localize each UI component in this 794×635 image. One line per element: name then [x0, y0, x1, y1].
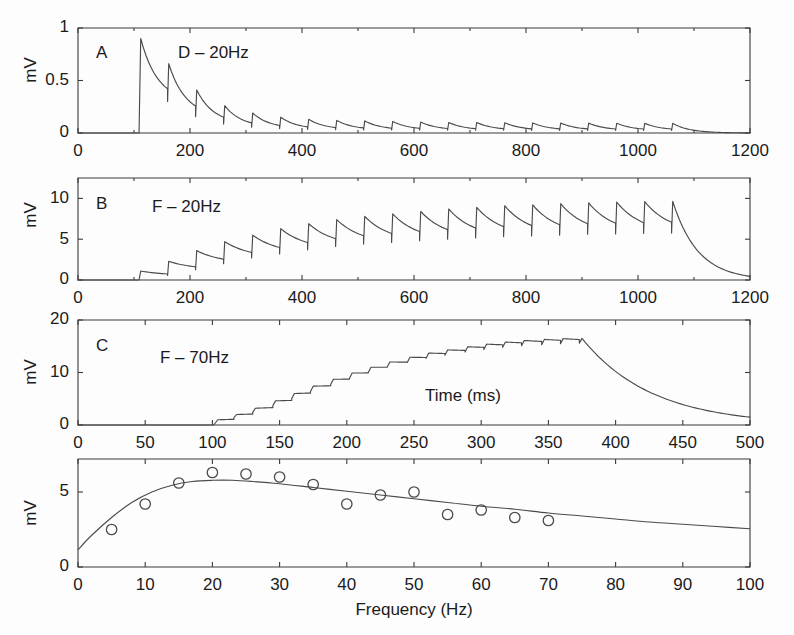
- panel-b: 020040060080010001200 0510 B F – 20Hz mV: [21, 178, 769, 307]
- panel-d-fit-curve: [78, 480, 750, 550]
- panel-d-data-point: [409, 487, 419, 497]
- panel-d-yticklabels: 05: [60, 481, 69, 575]
- pd-xticklabel: 90: [673, 575, 692, 594]
- pb-yticklabel: 10: [50, 188, 69, 207]
- pb-xticklabel: 600: [400, 288, 428, 307]
- panel-a-ylabel: mV: [21, 57, 40, 83]
- pd-xticklabel: 40: [337, 575, 356, 594]
- panel-d-data-point: [241, 469, 251, 479]
- panel-a-condition-label: D – 20Hz: [178, 43, 249, 62]
- panel-d-axes-box: [78, 459, 750, 567]
- panel-d-data-point: [274, 472, 284, 482]
- panel-c-xlabel: Time (ms): [425, 386, 501, 405]
- pc-xticklabel: 150: [265, 433, 293, 452]
- pd-yticklabel: 5: [60, 481, 69, 500]
- pa-xticklabel: 0: [73, 141, 82, 160]
- pa-xticklabel: 200: [176, 141, 204, 160]
- panel-d-ylabel: mV: [21, 500, 40, 526]
- panel-b-ylabel: mV: [21, 202, 40, 228]
- pd-xticklabel: 30: [270, 575, 289, 594]
- panel-d-xlabel: Frequency (Hz): [355, 600, 472, 619]
- panel-c-xticklabels: 050100150200250300350400450500: [73, 433, 764, 452]
- pb-xticklabel: 200: [176, 288, 204, 307]
- pd-xticklabel: 100: [736, 575, 764, 594]
- panel-c-yticklabels: 01020: [50, 309, 69, 433]
- pb-xticklabel: 800: [512, 288, 540, 307]
- pc-yticklabel: 20: [50, 309, 69, 328]
- pd-xticklabel: 20: [203, 575, 222, 594]
- pa-xticklabel: 1200: [731, 141, 769, 160]
- pa-xticklabel: 400: [288, 141, 316, 160]
- pc-xticklabel: 50: [136, 433, 155, 452]
- pa-xticklabel: 800: [512, 141, 540, 160]
- pa-yticklabel: 0.5: [45, 70, 69, 89]
- panel-d-data-point: [510, 512, 520, 522]
- pd-xticklabel: 10: [136, 575, 155, 594]
- panel-c-xticks: [78, 320, 750, 425]
- panel-b-yticklabels: 0510: [50, 188, 69, 289]
- figure-canvas: 020040060080010001200 00.51 A D – 20Hz m…: [0, 0, 794, 635]
- panel-b-xticklabels: 020040060080010001200: [73, 288, 769, 307]
- pc-xticklabel: 100: [198, 433, 226, 452]
- pb-yticklabel: 0: [60, 269, 69, 288]
- pd-xticklabel: 70: [539, 575, 558, 594]
- panel-a-yticklabels: 00.51: [45, 17, 69, 141]
- panel-a-xticklabels: 020040060080010001200: [73, 141, 769, 160]
- pc-xticklabel: 300: [467, 433, 495, 452]
- pa-xticklabel: 600: [400, 141, 428, 160]
- pc-yticklabel: 0: [60, 414, 69, 433]
- panel-d-xticks: [78, 459, 750, 567]
- panel-b-condition-label: F – 20Hz: [152, 197, 221, 216]
- figure-svg: 020040060080010001200 00.51 A D – 20Hz m…: [0, 0, 794, 635]
- panel-c-axes-box: [78, 320, 750, 425]
- pc-xticklabel: 0: [73, 433, 82, 452]
- pd-xticklabel: 60: [472, 575, 491, 594]
- pd-xticklabel: 50: [405, 575, 424, 594]
- panel-d-data-point: [342, 499, 352, 509]
- pc-xticklabel: 450: [669, 433, 697, 452]
- panel-d-yticks: [78, 492, 750, 567]
- pc-xticklabel: 500: [736, 433, 764, 452]
- panel-c: 050100150200250300350400450500 01020 C F…: [21, 309, 764, 452]
- pc-xticklabel: 350: [534, 433, 562, 452]
- pb-xticklabel: 400: [288, 288, 316, 307]
- panel-c-letter: C: [96, 336, 108, 355]
- panel-b-letter: B: [96, 194, 107, 213]
- panel-d-data-point: [140, 499, 150, 509]
- pd-yticklabel: 0: [60, 556, 69, 575]
- panel-d-data-point: [106, 524, 116, 534]
- pc-xticklabel: 200: [333, 433, 361, 452]
- panel-d: 0102030405060708090100 05 mV Frequency (…: [21, 459, 764, 619]
- pb-xticklabel: 1200: [731, 288, 769, 307]
- panel-d-xticklabels: 0102030405060708090100: [73, 575, 764, 594]
- pc-yticklabel: 10: [50, 362, 69, 381]
- panel-d-data-point: [442, 509, 452, 519]
- pa-yticklabel: 1: [60, 17, 69, 36]
- pb-xticklabel: 0: [73, 288, 82, 307]
- panel-a: 020040060080010001200 00.51 A D – 20Hz m…: [21, 17, 769, 160]
- panel-d-data-point: [308, 479, 318, 489]
- pd-xticklabel: 0: [73, 575, 82, 594]
- pa-yticklabel: 0: [60, 122, 69, 141]
- pa-xticklabel: 1000: [619, 141, 657, 160]
- pc-xticklabel: 250: [400, 433, 428, 452]
- panel-d-data-markers: [106, 467, 553, 534]
- panel-a-letter: A: [96, 43, 108, 62]
- panel-d-data-point: [543, 515, 553, 525]
- panel-c-ylabel: mV: [21, 359, 40, 385]
- panel-d-data-point: [207, 467, 217, 477]
- panel-c-yticks: [78, 320, 750, 425]
- pb-yticklabel: 5: [60, 229, 69, 248]
- pb-xticklabel: 1000: [619, 288, 657, 307]
- pd-xticklabel: 80: [606, 575, 625, 594]
- pc-xticklabel: 400: [601, 433, 629, 452]
- panel-c-condition-label: F – 70Hz: [160, 348, 229, 367]
